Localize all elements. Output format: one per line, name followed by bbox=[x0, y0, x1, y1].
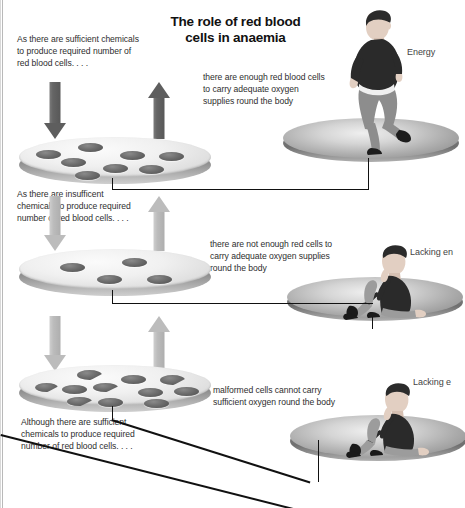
red-blood-cell bbox=[122, 258, 147, 267]
cell-platter-normal bbox=[19, 137, 211, 191]
panel-deficiency-center-note: there are not enough red cells to carry … bbox=[210, 238, 340, 275]
red-blood-cell bbox=[75, 171, 100, 180]
panel-deficiency-left-note: As there are insufficent chemicals to pr… bbox=[17, 188, 143, 225]
figure-running-man bbox=[344, 8, 416, 156]
red-blood-cell bbox=[139, 165, 164, 174]
red-blood-cell bbox=[174, 387, 199, 396]
page-edge-line-outer bbox=[0, 0, 1, 508]
leader-line-normal-stage-stem bbox=[368, 158, 369, 190]
cell-platter-malformed bbox=[19, 365, 211, 419]
leader-line-deficiency-horizontal bbox=[112, 303, 373, 304]
red-blood-cell bbox=[121, 375, 146, 384]
leader-line-deficiency-stage-stem bbox=[372, 317, 373, 329]
page-title-line-1: The role of red blood bbox=[148, 14, 323, 30]
red-blood-cell bbox=[61, 158, 86, 167]
leader-line-malformed-baseline bbox=[1, 434, 312, 508]
page-title: The role of red blood cells in anaemia bbox=[148, 14, 323, 47]
panel-normal-left-note: As there are sufficient chemicals to pro… bbox=[17, 33, 145, 70]
red-blood-cell bbox=[147, 275, 172, 284]
red-blood-cell bbox=[36, 150, 61, 159]
leader-line-normal-horizontal bbox=[112, 189, 369, 190]
panel-malformed-center-note: malformed cells cannot carry sufficient … bbox=[213, 384, 341, 408]
red-blood-cell bbox=[62, 385, 87, 394]
page-title-line-2: cells in anaemia bbox=[148, 30, 323, 46]
red-blood-cell bbox=[97, 275, 122, 284]
arrow-up-icon-malformed bbox=[148, 316, 170, 371]
arrow-down-icon-deficiency bbox=[44, 196, 66, 251]
page-edge-line bbox=[2, 0, 3, 508]
leader-line-deficiency-vertical bbox=[112, 290, 113, 304]
panel-normal-center-note: there are enough red blood cells to carr… bbox=[203, 71, 328, 108]
arrow-up-icon-normal bbox=[148, 82, 170, 139]
red-blood-cell bbox=[60, 263, 85, 272]
panel-malformed-left-note: Although there are sufficient chemicals … bbox=[21, 416, 151, 453]
figure-seated-man-deficiency bbox=[337, 240, 437, 322]
arrow-down-icon-normal bbox=[44, 82, 66, 139]
leader-line-malformed-vertical bbox=[112, 406, 113, 420]
red-blood-cell bbox=[120, 151, 145, 160]
figure-seated-man-malformed bbox=[340, 378, 440, 460]
arrow-up-icon-deficiency bbox=[148, 196, 170, 251]
arrow-down-icon-malformed bbox=[44, 316, 66, 371]
red-blood-cell bbox=[138, 388, 163, 397]
red-blood-cell bbox=[103, 164, 128, 173]
red-blood-cell bbox=[78, 143, 103, 152]
cell-platter-deficiency bbox=[19, 249, 211, 303]
infographic-poster: The role of red blood cells in anaemia A… bbox=[0, 0, 465, 508]
leader-line-malformed-stage-stem bbox=[318, 440, 319, 482]
red-blood-cell bbox=[98, 398, 123, 407]
red-blood-cell bbox=[159, 152, 184, 161]
red-blood-cell bbox=[144, 399, 169, 408]
